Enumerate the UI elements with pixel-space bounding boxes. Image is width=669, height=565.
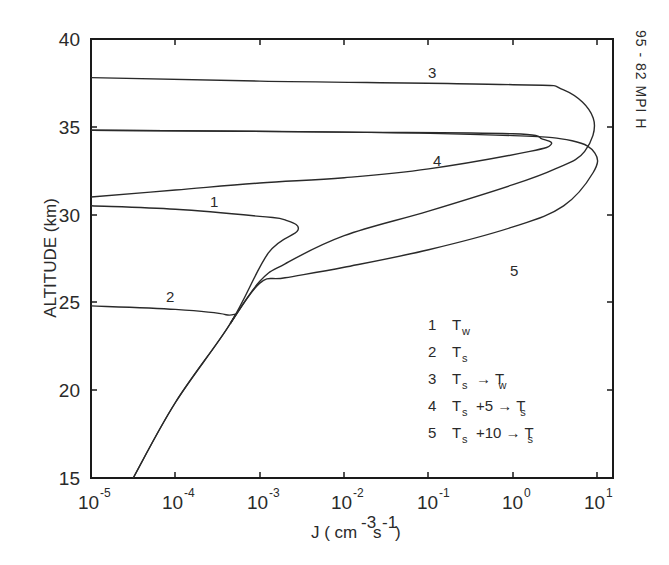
curve-label-2: 2 [166, 288, 174, 305]
svg-text:s: s [373, 523, 382, 542]
x-axis-title: J ( cm -3 s -1 ) [311, 513, 401, 542]
svg-text:0: 0 [524, 486, 531, 500]
svg-text:2: 2 [428, 343, 436, 360]
side-annotation: 95 - 82 MPI H [633, 30, 649, 129]
x-tick-1e-5: 10 -5 [78, 486, 111, 513]
svg-text:-3: -3 [269, 486, 280, 500]
legend-entry-5: 5Ts+10 → Ts [428, 424, 534, 445]
svg-text:s: s [520, 406, 526, 418]
svg-text:10: 10 [247, 492, 268, 513]
x-tick-1e1: 10 1 [584, 486, 613, 513]
svg-text:s: s [462, 406, 468, 418]
svg-text:T: T [452, 397, 461, 414]
x-tick-labels: 10 -5 10 -4 10 -3 10 -2 10 -1 10 0 10 1 [78, 486, 613, 513]
svg-text:5: 5 [428, 424, 436, 441]
curve-2-ts [91, 306, 236, 478]
curve-label-5: 5 [510, 262, 518, 279]
svg-text:4: 4 [428, 397, 436, 414]
svg-text:s: s [527, 433, 533, 445]
svg-text:T: T [452, 343, 461, 360]
svg-text:-4: -4 [184, 486, 195, 500]
curve-3-ts-to-tw [91, 78, 594, 324]
y-tick-30: 30 [59, 205, 80, 226]
svg-text:): ) [395, 523, 401, 542]
curve-4-ts-plus5-to-ts [91, 130, 552, 197]
svg-text:10: 10 [502, 492, 523, 513]
svg-text:s: s [462, 433, 468, 445]
x-tick-1e-3: 10 -3 [247, 486, 280, 513]
y-tick-40: 40 [59, 29, 80, 50]
curve-label-3: 3 [428, 64, 436, 81]
svg-text:1: 1 [428, 316, 436, 333]
svg-text:10: 10 [162, 492, 183, 513]
svg-text:w: w [461, 325, 470, 337]
x-tick-1e-1: 10 -1 [417, 486, 450, 513]
y-tick-35: 35 [59, 117, 80, 138]
svg-text:-2: -2 [353, 486, 364, 500]
y-tick-25: 25 [59, 292, 80, 313]
svg-text:-1: -1 [439, 486, 450, 500]
curve-label-1: 1 [210, 193, 218, 210]
y-tick-labels: 40 35 30 25 20 15 [59, 29, 80, 489]
altitude-nucleation-chart: 40 35 30 25 20 15 10 -5 10 -4 10 -3 10 -… [0, 0, 669, 565]
svg-text:10: 10 [331, 492, 352, 513]
legend-entry-2: 2Ts [428, 343, 468, 364]
y-tick-20: 20 [59, 380, 80, 401]
legend-entry-3: 3Ts→ Tw [428, 370, 507, 391]
svg-text:10: 10 [78, 492, 99, 513]
svg-text:10: 10 [584, 492, 605, 513]
x-tick-1e-2: 10 -2 [331, 486, 364, 513]
svg-text:w: w [498, 379, 507, 391]
curve-label-4: 4 [433, 152, 441, 169]
curve-1-tw [91, 206, 298, 478]
svg-text:T: T [452, 424, 461, 441]
svg-text:1: 1 [606, 486, 613, 500]
svg-text:T: T [452, 370, 461, 387]
legend: 1Tw2Ts3Ts→ Tw4Ts+5 → Ts5Ts+10 → Ts [428, 316, 534, 445]
svg-text:3: 3 [428, 370, 436, 387]
legend-entry-4: 4Ts+5 → Ts [428, 397, 526, 418]
x-tick-1e0: 10 0 [502, 486, 531, 513]
y-axis-ticks [91, 127, 613, 390]
svg-text:J ( cm: J ( cm [311, 523, 357, 542]
x-tick-1e-4: 10 -4 [162, 486, 195, 513]
svg-text:+10 → T: +10 → T [476, 424, 534, 441]
svg-text:-5: -5 [100, 486, 111, 500]
svg-text:+5 → T: +5 → T [476, 397, 525, 414]
y-axis-title: ALTITUDE (km) [41, 198, 60, 318]
y-tick-15: 15 [59, 468, 80, 489]
svg-text:s: s [462, 352, 468, 364]
svg-text:T: T [452, 316, 461, 333]
legend-entry-1: 1Tw [428, 316, 470, 337]
svg-text:s: s [462, 379, 468, 391]
svg-text:10: 10 [417, 492, 438, 513]
